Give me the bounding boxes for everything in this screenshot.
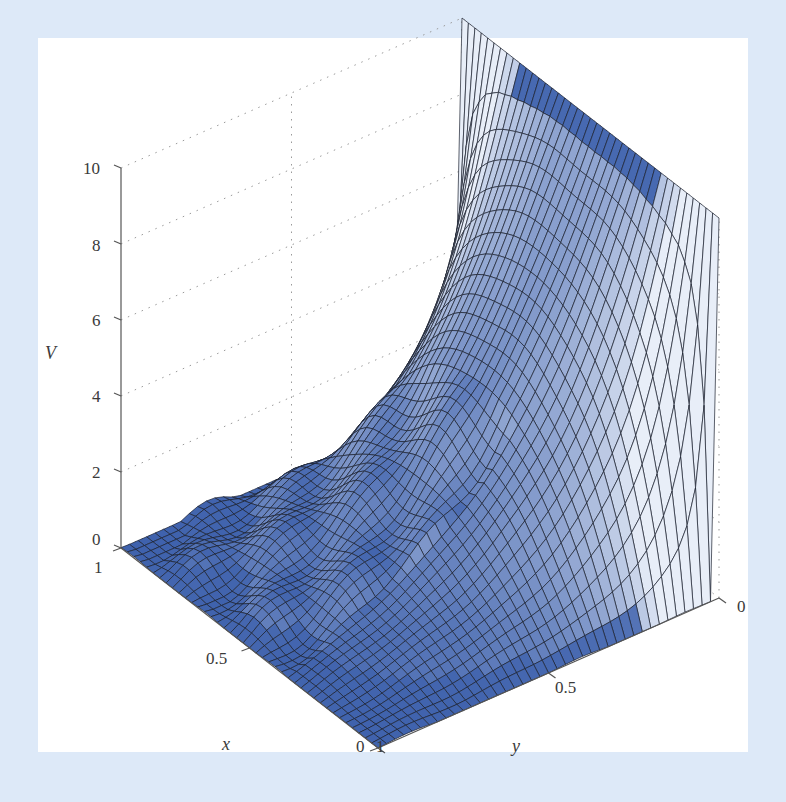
x-tick-label-2: 0 bbox=[356, 738, 365, 755]
y-tick-label-0: 1 bbox=[376, 738, 385, 755]
z-tick-label-4: 2 bbox=[92, 464, 101, 481]
z-tick-label-3: 4 bbox=[92, 388, 101, 405]
x-tick-label-1: 0.5 bbox=[206, 650, 227, 667]
z-tick-label-2: 6 bbox=[92, 312, 101, 329]
z-tick-label-1: 8 bbox=[92, 237, 101, 254]
z-axis-label: V bbox=[45, 344, 56, 362]
x-tick-label-0: 1 bbox=[94, 559, 103, 576]
x-axis-label: x bbox=[222, 735, 230, 753]
z-tick-label-0: 10 bbox=[83, 160, 100, 177]
y-tick-label-1: 0.5 bbox=[555, 679, 576, 696]
z-tick-label-5: 0 bbox=[92, 531, 101, 548]
surface-mesh bbox=[121, 18, 719, 748]
surface-plot bbox=[0, 0, 786, 802]
y-axis-label: y bbox=[512, 737, 520, 755]
y-tick-label-2: 0 bbox=[737, 598, 746, 615]
